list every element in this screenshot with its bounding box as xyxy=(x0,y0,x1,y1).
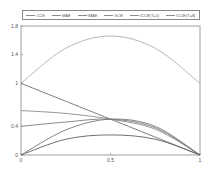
series-line-curve-c xyxy=(21,111,200,155)
y-tick-label: 1.4 xyxy=(11,51,18,57)
y-tick-label: 0 xyxy=(15,152,18,158)
series-line-curve-d xyxy=(21,119,200,155)
y-tick-label: 1 xyxy=(15,80,18,86)
curves xyxy=(21,36,200,155)
chart-svg: 00.5100.411.41.8 xyxy=(0,0,213,174)
x-tick-label: 1 xyxy=(199,157,202,163)
y-tick-label: 0.4 xyxy=(11,123,18,129)
axis-ticks: 00.5100.411.41.8 xyxy=(11,23,202,163)
x-tick-label: 0.5 xyxy=(107,157,114,163)
series-line-curve-a xyxy=(21,36,200,83)
x-tick-label: 0 xyxy=(20,157,23,163)
y-tick-label: 1.8 xyxy=(11,23,18,29)
plot-frame xyxy=(21,26,200,155)
